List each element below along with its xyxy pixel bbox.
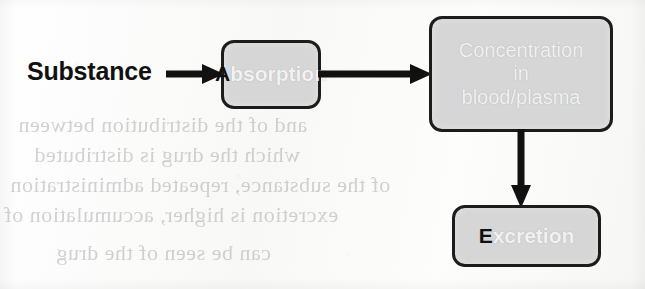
bleed-through-line: of the substance, repeated administratio…: [10, 172, 390, 198]
node-excretion[interactable]: Excretion: [452, 205, 601, 267]
node-absorption[interactable]: Absorption: [221, 40, 321, 109]
bleed-through-line: excretion is higher, accumulation of: [4, 202, 338, 228]
bleed-through-line: can be seen of the drug: [56, 240, 271, 266]
node-concentration-label: Concentration in blood/plasma: [453, 39, 590, 109]
node-absorption-remainder: bsorption: [230, 62, 327, 85]
node-absorption-initial: A: [215, 62, 230, 85]
substance-label: Substance: [27, 57, 152, 86]
node-concentration-line-3: blood/plasma: [459, 86, 584, 109]
arrow-concentration-to-excretion: [508, 129, 534, 208]
scanned-page: and of the distribution between which th…: [0, 0, 645, 289]
node-concentration-line-1: Concentration: [459, 39, 584, 62]
node-concentration-line-2: in: [459, 62, 584, 85]
node-absorption-label: Absorption: [215, 62, 327, 86]
node-concentration-in-blood-plasma[interactable]: Concentration in blood/plasma: [429, 16, 613, 132]
node-excretion-label: Excretion: [479, 224, 575, 248]
bleed-through-line: which the drug is distributed: [34, 142, 300, 168]
node-excretion-initial: E: [479, 224, 493, 247]
arrow-absorption-to-concentration: [318, 61, 432, 87]
bleed-through-line: and of the distribution between: [18, 112, 307, 138]
node-excretion-remainder: xcretion: [493, 224, 575, 247]
